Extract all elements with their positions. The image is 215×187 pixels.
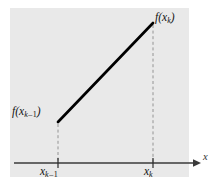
tick-label-xk-sub: k	[149, 170, 153, 179]
label-f-of-xk: f(xk)	[155, 12, 175, 25]
figure-container: f(xk) f(xk–1) xk–1 xk x	[0, 0, 215, 187]
tick-label-xk: xk	[144, 166, 153, 179]
label-f-of-xk-minus-1: f(xk–1)	[12, 106, 41, 119]
label-f-of-xk-minus-1-close: )	[37, 105, 41, 117]
x-axis-arrowhead	[193, 159, 201, 167]
secant-line-segment	[58, 23, 153, 122]
tick-label-xk-minus-1-sub2: 1	[54, 170, 58, 179]
label-f-of-xk-close: )	[171, 11, 175, 23]
axis-label-x: x	[203, 152, 208, 163]
tick-label-xk-minus-1: xk–1	[40, 166, 58, 179]
plot-graphics	[0, 0, 215, 187]
